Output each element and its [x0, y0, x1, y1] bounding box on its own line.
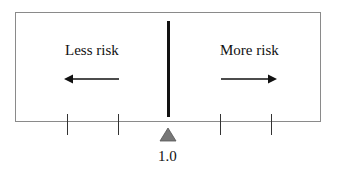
center-divider-line — [167, 21, 170, 117]
scale-tick — [220, 114, 221, 135]
arrow-left-icon — [63, 72, 121, 86]
less-risk-label: Less risk — [65, 42, 119, 59]
reference-value-label: 1.0 — [158, 148, 177, 165]
scale-tick — [67, 114, 68, 135]
more-risk-label: More risk — [220, 42, 279, 59]
scale-tick — [118, 114, 119, 135]
scale-tick — [271, 114, 272, 135]
arrow-right-icon — [219, 72, 279, 86]
triangle-up-icon — [159, 127, 177, 142]
